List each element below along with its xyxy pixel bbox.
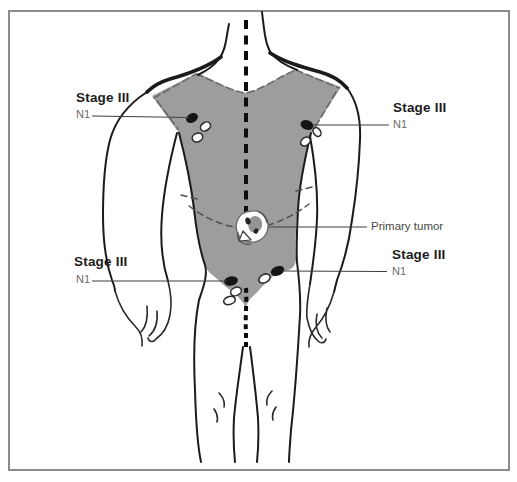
stage-label-upper-left: Stage III (76, 91, 130, 106)
stage-label-lower-right: Stage III (392, 248, 446, 263)
inner-leg-outline (234, 347, 259, 462)
stage-label-lower-left: Stage III (74, 255, 128, 270)
groin-crease-dashed (246, 288, 247, 347)
node-label-upper-right: N1 (393, 118, 407, 130)
node-label-lower-left: N1 (76, 273, 90, 285)
body-figure-illustration (0, 0, 517, 482)
open-lymph-node (223, 295, 237, 306)
leader-line-lower-right (282, 271, 387, 272)
melanoma-staging-diagram: Stage III N1 Stage III N1 Stage III N1 S… (0, 0, 517, 482)
node-label-lower-right: N1 (392, 265, 406, 277)
knee-sketch-marks (214, 391, 276, 422)
left-hand-sketch (115, 281, 171, 346)
primary-tumor-label: Primary tumor (371, 220, 443, 233)
stage-label-upper-right: Stage III (393, 101, 447, 116)
right-hand-sketch (307, 284, 334, 347)
node-label-upper-left: N1 (76, 108, 90, 120)
